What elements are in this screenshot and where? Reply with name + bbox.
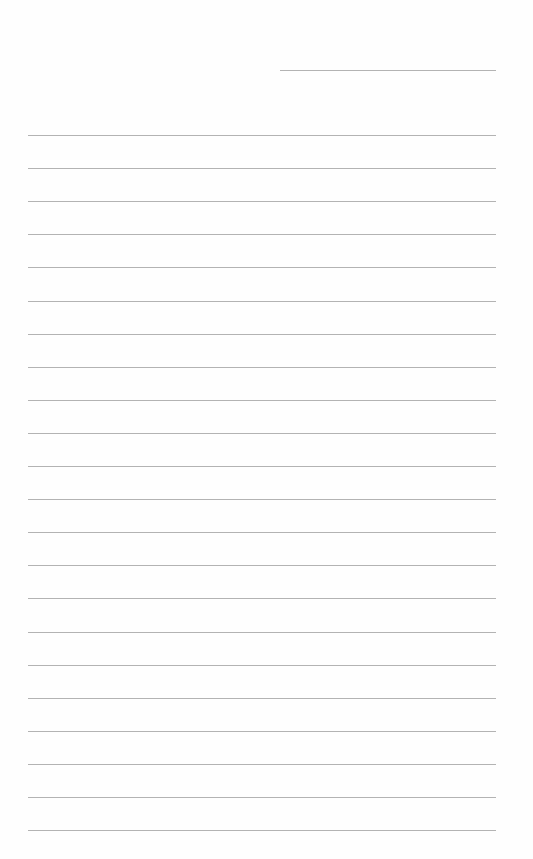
ruled-line (28, 234, 496, 235)
ruled-line (28, 168, 496, 169)
ruled-line (28, 797, 496, 798)
ruled-line (28, 466, 496, 467)
ruled-line (28, 135, 496, 136)
ruled-line (28, 830, 496, 831)
notepaper-page (0, 0, 533, 859)
ruled-line (28, 499, 496, 500)
ruled-line (28, 698, 496, 699)
ruled-line (28, 764, 496, 765)
ruled-line (28, 565, 496, 566)
ruled-line (28, 532, 496, 533)
ruled-line (28, 201, 496, 202)
ruled-line (28, 731, 496, 732)
ruled-line (28, 433, 496, 434)
ruled-line (28, 632, 496, 633)
ruled-line (28, 598, 496, 599)
ruled-line (28, 267, 496, 268)
ruled-line (28, 665, 496, 666)
ruled-line (28, 367, 496, 368)
ruled-line (28, 301, 496, 302)
header-line (280, 70, 496, 71)
ruled-line (28, 400, 496, 401)
ruled-line (28, 334, 496, 335)
